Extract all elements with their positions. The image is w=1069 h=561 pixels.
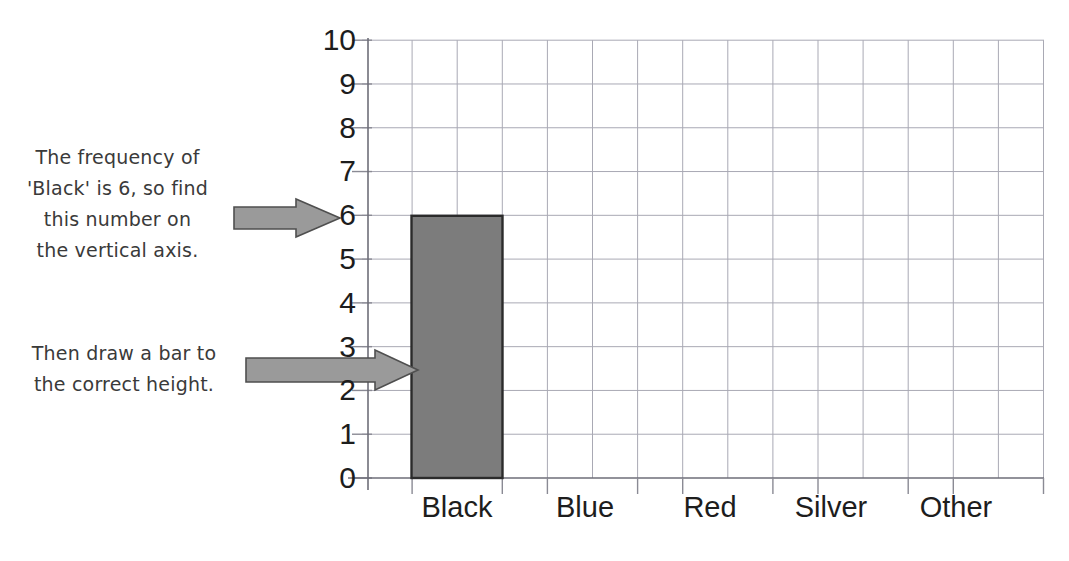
bar-black[interactable] — [412, 216, 503, 478]
y-tick-label-10: 10 — [310, 25, 356, 55]
x-axis-labels: Black Blue Red Silver Other — [368, 492, 1044, 536]
x-category-label-red: Red — [640, 492, 780, 522]
bar-chart — [0, 0, 1069, 561]
y-tick-label-9: 9 — [310, 69, 356, 99]
x-category-label-other: Other — [886, 492, 1026, 522]
y-tick-label-1: 1 — [310, 419, 356, 449]
y-tick-label-8: 8 — [310, 113, 356, 143]
y-tick-label-7: 7 — [310, 156, 356, 186]
y-tick-label-4: 4 — [310, 288, 356, 318]
y-tick-label-6: 6 — [310, 200, 356, 230]
annotation-draw-bar-note: Then draw a bar to the correct height. — [10, 338, 238, 400]
annotation-frequency-note: The frequency of 'Black' is 6, so find t… — [10, 142, 225, 266]
y-tick-label-0: 0 — [310, 463, 356, 493]
x-category-label-blue: Blue — [515, 492, 655, 522]
y-axis-labels: 10 9 8 7 6 5 4 3 2 1 0 — [300, 0, 356, 561]
y-tick-label-2: 2 — [310, 375, 356, 405]
x-category-label-black: Black — [387, 492, 527, 522]
y-tick-label-5: 5 — [310, 244, 356, 274]
y-tick-label-3: 3 — [310, 332, 356, 362]
worksheet-page: 10 9 8 7 6 5 4 3 2 1 0 Black Blue Red Si… — [0, 0, 1069, 561]
x-category-label-silver: Silver — [761, 492, 901, 522]
